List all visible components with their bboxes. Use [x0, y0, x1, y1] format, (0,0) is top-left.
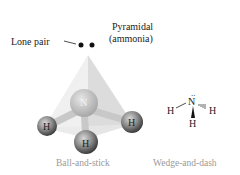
caption-wedge-and-dash: Wedge-and-dash [153, 158, 217, 168]
h-atom-label-left: H [43, 121, 50, 132]
lone-pair-label: Lone pair [11, 36, 50, 47]
wedge-h-bottom: H [189, 118, 196, 129]
n-atom-label: N [80, 97, 87, 108]
wedge-h-right: H [209, 105, 216, 116]
title-line2: (ammonia) [109, 33, 153, 44]
title-line1: Pyramidal [112, 21, 153, 32]
h-atom-label-right: H [128, 117, 135, 128]
caption-ball-and-stick: Ball-and-stick [56, 158, 110, 168]
wedge-h-left: H [167, 105, 174, 116]
h-atom-label-bottom: H [82, 138, 89, 149]
lone-pair-dots [79, 43, 95, 48]
wedge-n-label: N [188, 96, 195, 107]
lone-pair-leader [64, 41, 76, 44]
